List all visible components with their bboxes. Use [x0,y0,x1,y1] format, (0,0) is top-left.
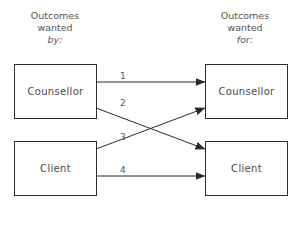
arrow-4-label: 4 [120,165,126,175]
arrow-2-label: 2 [120,98,126,108]
box-label: Client [40,163,71,174]
box-client-for: Client [205,141,288,196]
box-label: Client [231,163,262,174]
box-client-by: Client [14,141,97,196]
box-label: Counsellor [219,86,275,97]
box-counsellor-by: Counsellor [14,64,97,119]
arrow-1-label: 1 [120,71,126,81]
box-label: Counsellor [28,86,84,97]
box-counsellor-for: Counsellor [205,64,288,119]
arrow-3-label: 3 [120,132,126,142]
